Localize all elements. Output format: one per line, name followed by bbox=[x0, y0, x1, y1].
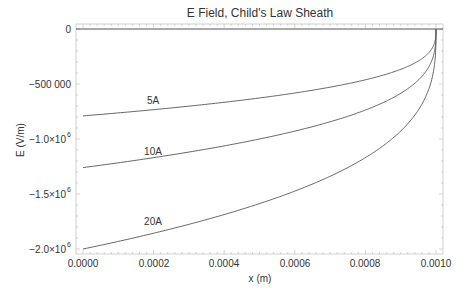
y-axis-label: E (V/m) bbox=[15, 123, 26, 157]
x-tick-label: 0.0000 bbox=[68, 258, 99, 269]
x-tick-label: 0.0008 bbox=[350, 258, 381, 269]
curve-label-20a: 20A bbox=[144, 216, 162, 227]
y-tick-label: −1.0×10 bbox=[29, 134, 66, 145]
x-axis-label: x (m) bbox=[249, 273, 272, 284]
curves bbox=[83, 29, 436, 249]
curve-label-10a: 10A bbox=[144, 146, 162, 157]
y-tick-exponent: 6 bbox=[67, 186, 71, 193]
chart: E Field, Child's Law Sheath 0 −500 000 −… bbox=[0, 0, 469, 296]
y-tick-exponent: 6 bbox=[67, 131, 71, 138]
y-tick-exponent: 6 bbox=[67, 241, 71, 248]
x-tick-label: 0.0004 bbox=[209, 258, 240, 269]
x-tick-label: 0.0002 bbox=[139, 258, 170, 269]
y-tick-label: −2.0×10 bbox=[29, 244, 66, 255]
y-tick-label: 0 bbox=[65, 24, 71, 35]
chart-title: E Field, Child's Law Sheath bbox=[187, 6, 333, 20]
y-tick-label: −500 000 bbox=[29, 79, 71, 90]
x-tick-label: 0.0006 bbox=[280, 258, 311, 269]
x-tick-label: 0.0010 bbox=[421, 258, 452, 269]
y-tick-label: −1.5×10 bbox=[29, 189, 66, 200]
curve-label-5a: 5A bbox=[147, 95, 160, 106]
